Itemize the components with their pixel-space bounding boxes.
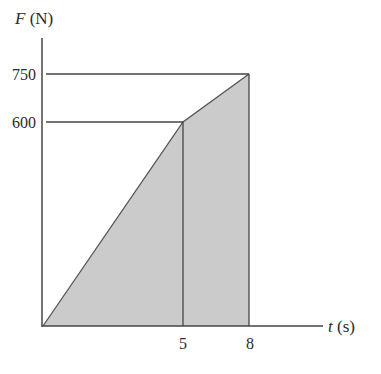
force-time-chart: F (N) 750 600 5 8 t (s) [0,0,381,374]
y-tick-600: 600 [12,114,36,131]
y-tick-750: 750 [12,66,36,83]
x-tick-5: 5 [179,335,187,352]
impulse-area [43,74,249,326]
x-tick-8: 8 [246,335,254,352]
x-axis-title: t (s) [328,317,355,336]
y-axis-title: F (N) [14,9,53,28]
